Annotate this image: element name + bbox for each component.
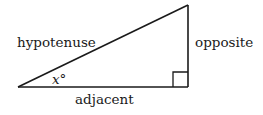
hypotenuse-label: hypotenuse: [17, 34, 96, 50]
right-angle-marker: [173, 72, 188, 87]
adjacent-label: adjacent: [75, 91, 134, 107]
opposite-label: opposite: [195, 34, 253, 50]
right-triangle-diagram: hypotenuse opposite adjacent x°: [0, 0, 263, 115]
angle-label: x°: [52, 71, 66, 87]
